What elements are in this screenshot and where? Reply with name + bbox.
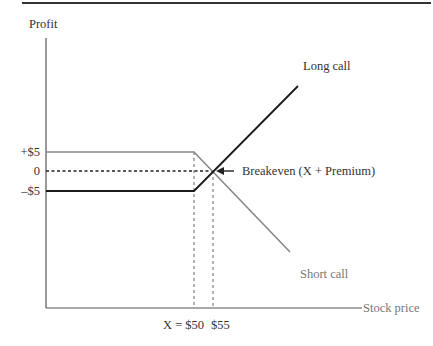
x-tick-strike: X = $50 <box>163 318 204 332</box>
x-tick-breakeven: $55 <box>211 318 230 332</box>
breakeven-label: Breakeven (X + Premium) <box>242 164 375 178</box>
long-call-label: Long call <box>303 59 351 73</box>
y-tick-zero: 0 <box>0 164 40 178</box>
y-tick-minus5: –$5 <box>0 184 40 198</box>
y-tick-plus5: +$5 <box>0 145 40 159</box>
x-axis-label: Stock price <box>363 301 420 315</box>
short-call-label: Short call <box>300 267 348 281</box>
y-axis-label: Profit <box>29 17 57 31</box>
